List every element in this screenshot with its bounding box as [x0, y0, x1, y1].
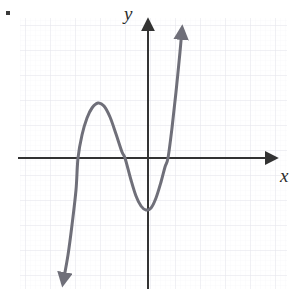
y-axis-label: y	[124, 4, 132, 23]
graph-figure: y x	[0, 0, 298, 289]
grid-paper	[20, 18, 287, 289]
x-axis-label: x	[280, 166, 288, 185]
coordinate-plane-svg	[0, 0, 298, 289]
